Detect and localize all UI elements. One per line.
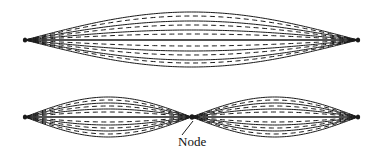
panel-fundamental bbox=[23, 12, 360, 67]
right-fixed-end-point bbox=[356, 37, 360, 42]
node-label: Node bbox=[178, 134, 206, 149]
wave-curve-solid bbox=[25, 40, 358, 67]
wave-diagram-svg: Node bbox=[0, 0, 380, 157]
right-fixed-end-point bbox=[356, 114, 360, 119]
node-point bbox=[190, 114, 195, 120]
standing-wave-figure: Node bbox=[0, 0, 380, 157]
node-leader-line bbox=[182, 121, 193, 135]
left-fixed-end-point bbox=[23, 114, 27, 119]
panel-second-harmonic bbox=[23, 97, 360, 137]
wave-curve-dashed bbox=[25, 34, 358, 40]
left-fixed-end-point bbox=[23, 37, 27, 42]
node-annotation: Node bbox=[178, 121, 206, 149]
wave-curve-dashed bbox=[25, 16, 358, 40]
